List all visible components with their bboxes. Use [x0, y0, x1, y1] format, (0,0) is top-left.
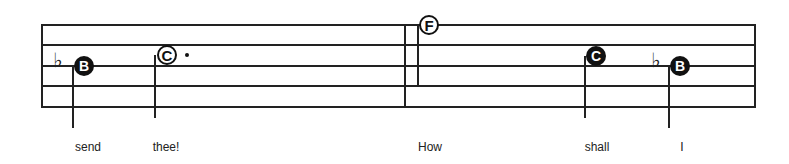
note-b-flat: B	[74, 56, 94, 76]
note-letter: C	[162, 48, 173, 63]
staff-line-2	[41, 44, 756, 46]
flat-icon: ♭	[651, 50, 660, 70]
note-letter: B	[675, 59, 685, 73]
lyric-send: send	[75, 140, 101, 154]
barline-end	[754, 24, 756, 108]
note-letter: B	[79, 59, 89, 73]
barline-start	[41, 24, 43, 108]
staff-line-3	[41, 65, 756, 67]
lyric-i: I	[680, 140, 683, 154]
note-c-dotted: C	[157, 45, 177, 65]
note-letter: F	[424, 18, 433, 33]
note-c: C	[586, 46, 606, 66]
note-stem	[154, 55, 156, 118]
augmentation-dot	[185, 53, 189, 57]
note-stem	[668, 66, 670, 128]
note-stem	[72, 66, 74, 128]
staff-line-4	[41, 85, 756, 87]
note-stem	[584, 56, 586, 118]
staff-line-5	[41, 106, 756, 108]
lyric-how: How	[418, 140, 442, 154]
note-f: F	[419, 15, 439, 35]
note-stem	[417, 25, 419, 87]
flat-icon: ♭	[53, 50, 62, 70]
lyric-thee: thee!	[153, 140, 180, 154]
staff-line-1	[41, 24, 756, 26]
note-b-flat: B	[670, 56, 690, 76]
barline-middle	[404, 24, 406, 108]
note-letter: C	[591, 49, 601, 63]
lyric-shall: shall	[585, 140, 610, 154]
